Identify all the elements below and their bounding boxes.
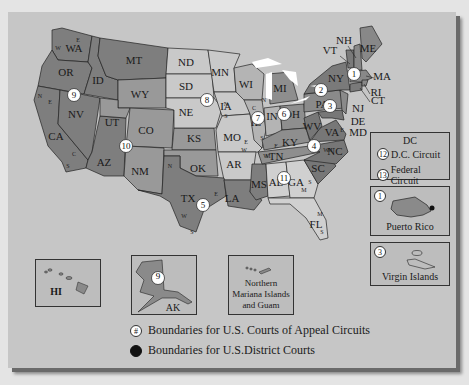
label-tx: TX <box>181 192 196 204</box>
label-in: IN <box>266 110 278 122</box>
federal-circuit-label: Federal Circuit <box>391 164 449 186</box>
label-me: ME <box>360 42 377 54</box>
label-wi: WI <box>239 78 253 90</box>
circuit-6-marker: 6 <box>278 108 291 121</box>
svg-text:M: M <box>317 211 323 217</box>
svg-text:N: N <box>262 97 267 103</box>
svg-text:10: 10 <box>122 141 132 151</box>
circuit-5-marker: 5 <box>197 199 210 212</box>
svg-text:N: N <box>38 93 43 99</box>
label-or: OR <box>58 66 74 78</box>
dc-circuit-row: 12 D.C. Circuit <box>377 148 440 160</box>
dc-inset: DC 12 D.C. Circuit 13 Federal Circuit <box>370 132 450 180</box>
pr-label: Puerto Rico <box>371 221 449 232</box>
label-id: ID <box>92 74 104 86</box>
circuit-13-marker: 13 <box>377 169 389 181</box>
label-co: CO <box>138 124 153 136</box>
svg-text:N: N <box>168 163 173 169</box>
legend-appeal-label: Boundaries for U.S. Courts of Appeal Cir… <box>148 323 370 338</box>
label-wa: WA <box>65 42 82 54</box>
district-boundary-icon <box>130 345 142 357</box>
label-mt: MT <box>126 54 143 66</box>
label-ne: NE <box>179 106 194 118</box>
alaska-inset: 9 AK <box>131 255 197 315</box>
hawaii-inset: HI <box>35 259 101 307</box>
svg-text:E: E <box>244 139 248 145</box>
vi-label: Virgin Islands <box>371 271 449 282</box>
label-ct: CT <box>371 94 385 106</box>
label-tn: TN <box>269 150 284 162</box>
svg-text:M: M <box>301 187 307 193</box>
label-ms: MS <box>251 178 267 190</box>
state-ne <box>166 98 222 128</box>
mariana-line3: and Guam <box>229 300 293 310</box>
label-mi: MI <box>273 82 287 94</box>
svg-text:W: W <box>241 147 247 153</box>
svg-text:5: 5 <box>201 200 206 210</box>
svg-text:S: S <box>260 135 263 141</box>
label-wy: WY <box>131 88 149 100</box>
circuit-3-marker: 3 <box>324 100 337 113</box>
circuit-9-ak-marker: 9 <box>152 271 164 281</box>
svg-text:S: S <box>320 229 323 235</box>
hi-label: HI <box>36 286 76 297</box>
mariana-line1: Northern <box>229 278 293 288</box>
svg-text:S: S <box>308 179 311 185</box>
svg-text:C: C <box>72 151 76 157</box>
circuit-1-marker: 1 <box>348 68 361 81</box>
legend-district-courts: Boundaries for U.S.District Courts <box>130 343 315 358</box>
state-ct <box>350 82 362 92</box>
dc-title: DC <box>371 135 449 146</box>
label-la: LA <box>225 192 240 204</box>
label-ca: CA <box>48 130 63 142</box>
federal-circuit-row: 13 Federal Circuit <box>377 164 449 186</box>
dc-circuit-label: D.C. Circuit <box>391 149 440 160</box>
circuit-11-marker: 11 <box>278 172 291 185</box>
legend-district-label: Boundaries for U.S.District Courts <box>148 343 315 358</box>
circuit-12-marker: 12 <box>377 148 389 160</box>
svg-text:E: E <box>340 127 344 133</box>
circuit-9-marker: 9 <box>68 89 81 102</box>
label-ut: UT <box>105 116 120 128</box>
svg-text:C: C <box>252 105 256 111</box>
svg-text:11: 11 <box>280 173 289 183</box>
label-ny: NY <box>328 72 344 84</box>
svg-text:M: M <box>265 153 271 159</box>
label-va: VA <box>325 126 340 138</box>
virgin-islands-inset: 3 Virgin Islands <box>370 242 450 286</box>
circuit-10-marker: 10 <box>120 140 133 153</box>
label-md: MD <box>349 126 367 138</box>
legend-appeal-circuits: # Boundaries for U.S. Courts of Appeal C… <box>130 323 370 338</box>
ak-label: AK <box>148 302 198 313</box>
svg-text:N: N <box>224 101 229 107</box>
svg-text:8: 8 <box>205 95 210 105</box>
svg-text:W: W <box>55 45 61 51</box>
svg-text:6: 6 <box>282 109 287 119</box>
label-nd: ND <box>178 56 194 68</box>
svg-text:E: E <box>214 191 218 197</box>
label-mn: MN <box>211 66 229 78</box>
svg-text:4: 4 <box>312 141 317 151</box>
svg-text:W: W <box>181 213 187 219</box>
svg-text:S: S <box>190 229 193 235</box>
svg-text:S: S <box>66 163 69 169</box>
circuit-number-icon: # <box>130 325 142 337</box>
svg-text:E: E <box>48 99 52 105</box>
svg-text:3: 3 <box>328 101 333 111</box>
label-az: AZ <box>97 156 112 168</box>
circuit-7-marker: 7 <box>252 112 265 125</box>
label-ok: OK <box>190 162 206 174</box>
svg-text:E: E <box>274 143 278 149</box>
label-wv: WV <box>303 120 321 132</box>
svg-text:1: 1 <box>352 69 357 79</box>
mariana-inset: Northern Mariana Islands and Guam <box>228 255 294 315</box>
svg-text:M: M <box>327 147 333 153</box>
circuit-4-marker: 4 <box>308 140 321 153</box>
mariana-line2: Mariana Islands <box>229 289 293 299</box>
label-nj: NJ <box>352 102 365 114</box>
svg-text:7: 7 <box>256 113 261 123</box>
label-nm: NM <box>131 165 149 177</box>
circuit-8-marker: 8 <box>201 94 214 107</box>
svg-text:S: S <box>224 113 227 119</box>
svg-text:E: E <box>76 37 80 43</box>
